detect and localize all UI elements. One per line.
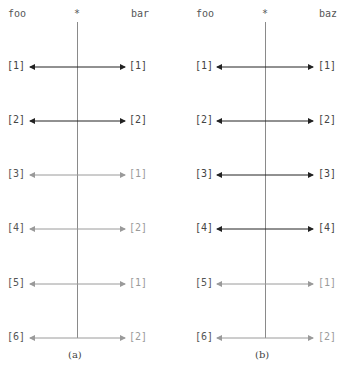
arrows xyxy=(0,0,170,373)
row-2-left: [2] xyxy=(195,114,213,125)
row-6-left: [6] xyxy=(7,331,25,342)
row-6-left: [6] xyxy=(195,331,213,342)
row-5-right: [1] xyxy=(318,277,336,288)
row-3-left: [3] xyxy=(7,168,25,179)
row-6-right: [2] xyxy=(318,331,336,342)
row-5-left: [5] xyxy=(195,277,213,288)
panel-a: foo * bar [1] [1] [2] [2] [3] [1] [4] [2… xyxy=(0,0,170,373)
row-1-right: [1] xyxy=(318,60,336,71)
panel-b: foo * baz [1] [1] [2] [2] [3] [3] [4] [4… xyxy=(170,0,340,373)
row-5-right: [1] xyxy=(129,277,147,288)
arrows xyxy=(170,0,340,373)
row-3-left: [3] xyxy=(195,168,213,179)
row-4-right: [2] xyxy=(129,222,147,233)
row-4-right: [4] xyxy=(318,222,336,233)
row-2-right: [2] xyxy=(129,114,147,125)
row-6-right: [2] xyxy=(129,331,147,342)
row-1-left: [1] xyxy=(195,60,213,71)
row-3-right: [3] xyxy=(318,168,336,179)
row-1-left: [1] xyxy=(7,60,25,71)
caption-b: (b) xyxy=(255,349,269,360)
row-4-left: [4] xyxy=(195,222,213,233)
row-2-right: [2] xyxy=(318,114,336,125)
row-4-left: [4] xyxy=(7,222,25,233)
row-3-right: [1] xyxy=(129,168,147,179)
caption-a: (a) xyxy=(68,349,82,360)
row-5-left: [5] xyxy=(7,277,25,288)
row-2-left: [2] xyxy=(7,114,25,125)
row-1-right: [1] xyxy=(129,60,147,71)
